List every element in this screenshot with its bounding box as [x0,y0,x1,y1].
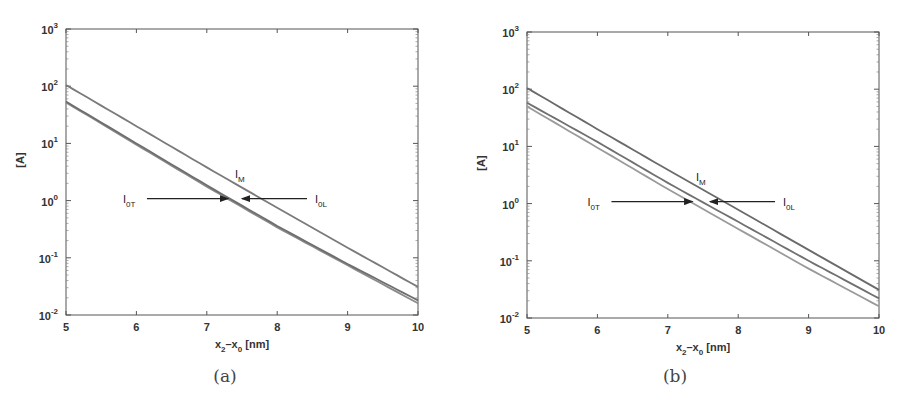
y-tick-label: 102 [502,81,519,96]
series-line-i0l [527,103,879,299]
x-tick-label: 5 [63,321,69,333]
label-im: IM [696,171,706,187]
y-tick-label: 100 [41,193,58,208]
y-tick-label: 10-1 [500,253,520,268]
y-tick-label: 101 [41,135,58,150]
y-axis-title: [A] [14,152,26,168]
x-tick-label: 9 [345,321,351,333]
x-tick-label: 10 [412,321,424,333]
series-line-i0t [527,106,879,306]
x-tick-label: 8 [274,321,280,333]
series-line-i0l [66,102,418,301]
y-tick-label: 100 [502,196,519,211]
x-tick-label: 7 [665,324,671,336]
y-tick-label: 10-2 [39,307,59,322]
label-i0t: I0T [123,193,136,209]
x-tick-label: 5 [524,324,530,336]
label-i0t: I0T [587,196,600,212]
x-tick-label: 6 [594,324,600,336]
y-axis-title: [A] [475,155,487,171]
panel-a: 567891010-210-1100101102103[A]x2–x0 [nm]… [0,0,450,406]
chart-a: 567891010-210-1100101102103[A]x2–x0 [nm]… [0,0,450,406]
y-tick-label: 10-2 [500,310,520,325]
x-axis-title: x2–x0 [nm] [676,341,731,357]
y-tick-label: 102 [41,78,58,93]
label-im: IM [235,168,245,184]
panel-a-caption: (a) [0,366,450,386]
x-axis-title: x2–x0 [nm] [215,338,270,354]
y-tick-label: 103 [41,21,58,36]
x-tick-label: 10 [873,324,885,336]
x-tick-label: 8 [735,324,741,336]
chart-b: 567891010-210-1100101102103[A]x2–x0 [nm]… [450,0,901,406]
series-line-im [527,88,879,290]
label-i0l: I0L [783,196,796,212]
series-line-im [66,85,418,287]
label-i0l: I0L [315,193,328,209]
x-tick-label: 9 [806,324,812,336]
panel-b-caption: (b) [450,366,900,386]
y-tick-label: 10-1 [39,250,59,265]
y-tick-label: 101 [502,138,519,153]
axes-frame [527,32,879,318]
panel-b: 567891010-210-1100101102103[A]x2–x0 [nm]… [450,0,900,406]
x-tick-label: 6 [133,321,139,333]
y-tick-label: 103 [502,24,519,39]
x-tick-label: 7 [204,321,210,333]
